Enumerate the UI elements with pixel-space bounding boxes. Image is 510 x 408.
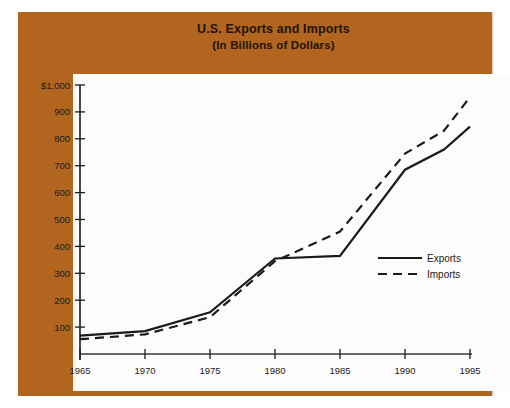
y-tick-label: 400 bbox=[54, 241, 70, 252]
x-tick-label: 1990 bbox=[394, 365, 415, 376]
x-tick-label: 1985 bbox=[329, 365, 350, 376]
page-margin-left bbox=[0, 0, 18, 408]
y-tick-label: 800 bbox=[54, 133, 70, 144]
x-tick-label: 1965 bbox=[69, 365, 90, 376]
legend-label-imports: Imports bbox=[427, 269, 460, 280]
x-tick-label: 1980 bbox=[264, 365, 285, 376]
y-tick-label: 500 bbox=[54, 214, 70, 225]
y-axis: 100200300400500600700800900$1,000 bbox=[41, 80, 85, 361]
y-tick-label: 100 bbox=[54, 322, 70, 333]
page-margin-bottom bbox=[0, 396, 509, 408]
series-line-imports bbox=[80, 97, 470, 339]
x-tick-label: 1975 bbox=[199, 365, 220, 376]
x-tick-label: 1970 bbox=[134, 365, 155, 376]
y-tick-label: $1,000 bbox=[41, 80, 70, 91]
series-line-exports bbox=[80, 127, 470, 336]
y-tick-label: 300 bbox=[54, 268, 70, 279]
y-tick-label: 200 bbox=[54, 295, 70, 306]
chart-legend: ExportsImports bbox=[378, 253, 461, 280]
x-tick-label: 1995 bbox=[459, 365, 480, 376]
y-tick-label: 600 bbox=[54, 187, 70, 198]
x-axis: 1965197019751980198519901995 bbox=[69, 349, 480, 376]
data-series bbox=[80, 97, 470, 339]
legend-label-exports: Exports bbox=[427, 253, 461, 264]
y-tick-label: 700 bbox=[54, 160, 70, 171]
y-tick-label: 900 bbox=[54, 106, 70, 117]
